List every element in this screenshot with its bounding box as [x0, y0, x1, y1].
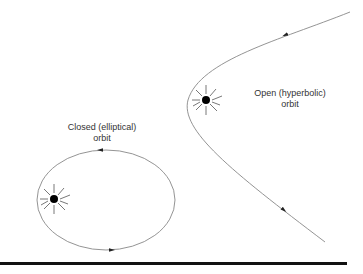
closed-orbit-label-line2: orbit [62, 133, 142, 144]
baseline-rule [0, 262, 347, 265]
closed-orbit-label: Closed (elliptical) orbit [62, 122, 142, 144]
sun-icon [40, 184, 70, 214]
sun-icon [192, 85, 222, 115]
hyperbolic-orbit [187, 12, 350, 242]
closed-orbit-label-line1: Closed (elliptical) [62, 122, 142, 133]
orbit-diagram [0, 0, 363, 274]
open-orbit-label: Open (hyperbolic) orbit [248, 88, 332, 110]
open-orbit-label-line1: Open (hyperbolic) [248, 88, 332, 99]
open-orbit-label-line2: orbit [248, 99, 332, 110]
